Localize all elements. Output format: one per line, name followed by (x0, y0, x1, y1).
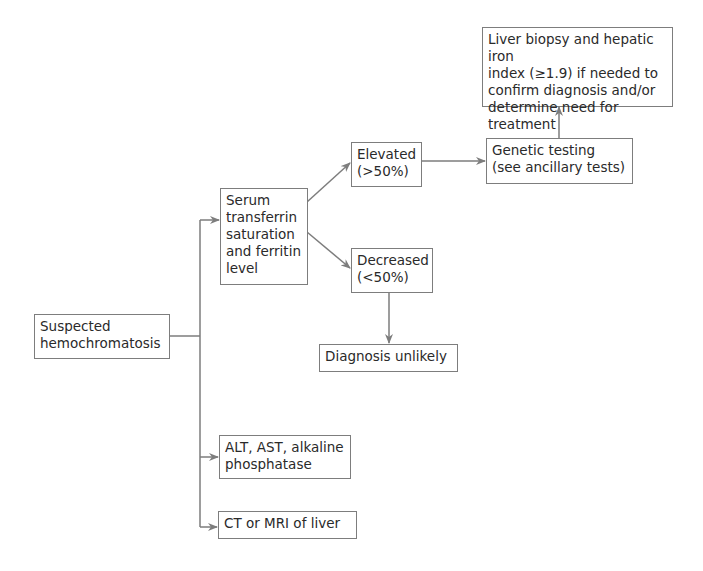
node-serum-transferrin: Serum transferrin saturation and ferriti… (220, 188, 308, 285)
node-liver-biopsy: Liver biopsy and hepatic iron index (≥1.… (482, 27, 673, 107)
node-liver-enzymes: ALT, AST, alkaline phosphatase (219, 435, 351, 479)
edge-serum-decreased (307, 232, 350, 268)
node-diagnosis-unlikely: Diagnosis unlikely (319, 344, 458, 372)
node-elevated: Elevated (>50%) (351, 142, 422, 187)
node-suspected-hemochromatosis: Suspected hemochromatosis (34, 314, 170, 359)
edge-serum-elevated (307, 163, 350, 202)
node-ct-mri: CT or MRI of liver (218, 511, 357, 539)
node-decreased: Decreased (<50%) (351, 248, 433, 293)
node-genetic-testing: Genetic testing (see ancillary tests) (486, 138, 633, 184)
